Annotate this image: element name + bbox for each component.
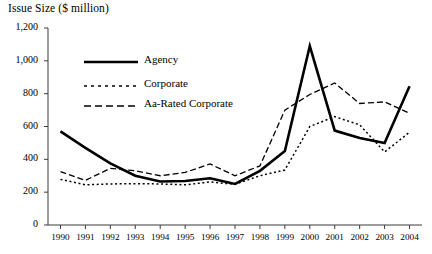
legend-label: Corporate [144,77,188,89]
legend-label: Aa-Rated Corporate [144,97,233,109]
y-axis-ticks [44,28,48,225]
y-axis-tick-label: 1,200 [2,21,38,32]
chart-container: Issue Size ($ million) 02004006008001,00… [0,0,432,254]
y-axis-tick-label: 400 [2,152,38,163]
dotted-line-swatch [84,80,140,92]
solid-line-swatch [84,56,140,68]
y-axis-tick-label: 800 [2,87,38,98]
y-axis-tick-label: 200 [2,185,38,196]
x-axis-ticks [60,225,409,229]
legend-label: Agency [144,53,178,65]
y-axis-tick-label: 600 [2,120,38,131]
x-axis-tick-label: 2004 [394,232,426,242]
y-axis-tick-label: 1,000 [2,54,38,65]
series-line-corporate [60,117,409,185]
plot-area [0,0,432,254]
y-axis-tick-label: 0 [2,218,38,229]
dashed-line-swatch [84,100,140,112]
